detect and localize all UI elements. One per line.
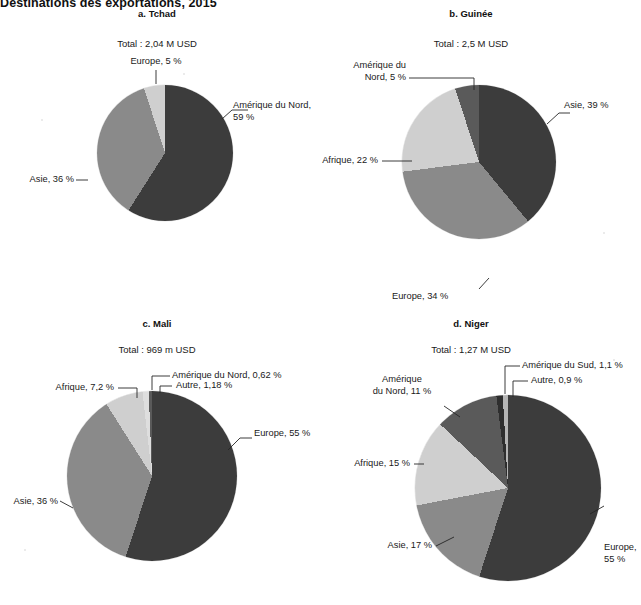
label-niger-africa: Afrique, 15 % [314, 458, 410, 470]
label-mali-africa: Afrique, 7,2 % [12, 382, 114, 394]
label-guinee-north-america: Amérique du Nord, 5 % [314, 60, 406, 83]
label-guinee-europe: Europe, 34 % [392, 291, 488, 303]
pie-chart-mali [0, 318, 314, 605]
pie-slices-guinee [402, 85, 556, 239]
label-tchad-north-america: Amérique du Nord, 59 % [233, 100, 321, 123]
label-niger-other: Autre, 0,9 % [531, 375, 627, 387]
label-tchad-europe: Europe, 5 % [104, 56, 208, 68]
label-guinee-africa: Afrique, 22 % [314, 155, 378, 167]
panel-niger: d. Niger Total : 1,27 M USD Amérique du … [314, 318, 628, 605]
scan-bleedthrough [42, 357, 45, 369]
pie-slices-niger [415, 395, 601, 581]
panel-guinee: b. Guinée Total : 2,5 M USD Amérique du … [314, 8, 628, 308]
scan-speck [613, 359, 615, 361]
label-niger-south-america: Amérique du Sud, 1,1 % [522, 360, 641, 372]
label-guinee-asia: Asie, 39 % [564, 100, 634, 112]
label-niger-asia: Asie, 17 % [344, 540, 432, 552]
label-niger-europe: Europe, 55 % [604, 542, 641, 565]
pie-slices-mali [67, 391, 237, 561]
panel-tchad: a. Tchad Total : 2,04 M USD Europe, 5 % … [0, 8, 314, 308]
pie-chart-tchad [0, 8, 314, 308]
scan-speck [41, 119, 43, 121]
label-mali-asia: Asie, 36 % [0, 496, 58, 508]
pie-slices-tchad [97, 85, 233, 221]
scan-speck [24, 549, 26, 551]
label-mali-other: Autre, 1,18 % [176, 380, 276, 392]
panel-mali: c. Mali Total : 969 m USD Amérique du No… [0, 318, 314, 605]
scan-speck [603, 232, 605, 234]
scan-speck [183, 73, 185, 75]
label-tchad-asia: Asie, 36 % [2, 174, 74, 186]
label-niger-north-america: Amérique du Nord, 11 % [354, 374, 450, 397]
